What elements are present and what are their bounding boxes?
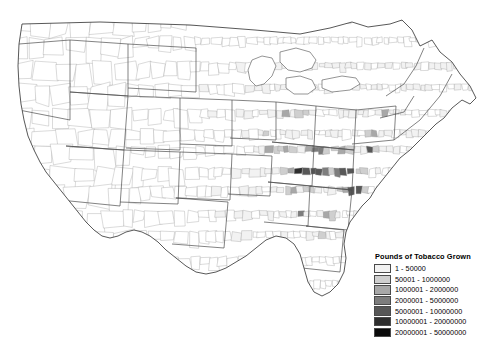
county-polygon — [270, 84, 275, 91]
county-polygon — [386, 146, 393, 153]
county-polygon — [163, 130, 182, 142]
county-polygon — [113, 15, 135, 37]
legend-label: 20000001 - 50000000 — [395, 328, 466, 337]
county-polygon — [297, 146, 305, 153]
county-polygon — [393, 63, 400, 70]
county-polygon — [379, 146, 387, 152]
county-polygon — [70, 229, 96, 251]
county-polygon — [353, 280, 361, 287]
county-polygon — [445, 232, 451, 240]
county-polygon — [217, 64, 229, 74]
county-polygon — [477, 14, 484, 21]
county-polygon — [269, 297, 277, 302]
county-polygon — [406, 211, 414, 217]
county-polygon — [308, 130, 313, 140]
county-polygon — [249, 257, 257, 267]
county-polygon — [451, 130, 457, 137]
legend-swatch — [374, 285, 391, 294]
county-polygon — [129, 295, 142, 311]
county-polygon — [323, 109, 330, 114]
county-polygon — [478, 110, 487, 118]
county-polygon — [396, 186, 403, 191]
county-polygon — [339, 297, 348, 304]
county-polygon — [35, 211, 48, 228]
county-polygon — [270, 187, 277, 193]
county-polygon — [277, 187, 284, 192]
county-polygon — [362, 231, 369, 241]
county-polygon — [180, 129, 197, 141]
county-polygon — [474, 84, 481, 91]
county-polygon — [405, 110, 412, 115]
county-polygon — [426, 211, 432, 216]
legend-swatch — [374, 328, 391, 337]
county-polygon — [10, 232, 29, 253]
county-polygon — [32, 282, 59, 301]
county-polygon — [173, 297, 186, 306]
county-polygon — [234, 14, 243, 22]
county-polygon — [140, 129, 154, 145]
county-polygon — [150, 281, 168, 295]
county-polygon — [331, 15, 338, 20]
county-polygon — [324, 37, 331, 43]
county-polygon — [208, 111, 218, 117]
county-polygon — [389, 231, 398, 240]
county-polygon — [403, 168, 410, 174]
county-polygon — [485, 211, 491, 216]
county-polygon — [449, 167, 456, 175]
county-polygon — [486, 231, 493, 239]
county-polygon — [471, 111, 480, 120]
county-polygon — [347, 281, 355, 290]
county-polygon — [249, 169, 261, 177]
county-polygon — [189, 280, 202, 292]
county-polygon — [86, 255, 106, 276]
county-polygon — [195, 37, 201, 45]
county-polygon — [219, 281, 229, 288]
county-polygon — [295, 296, 303, 304]
county-polygon — [282, 110, 290, 117]
county-polygon — [273, 211, 279, 218]
county-polygon — [206, 13, 216, 26]
county-polygon — [201, 38, 210, 45]
county-polygon — [215, 14, 225, 22]
county-polygon — [363, 14, 369, 20]
county-polygon — [299, 280, 308, 286]
county-polygon — [292, 297, 298, 303]
county-polygon — [101, 38, 121, 58]
county-polygon — [421, 62, 429, 71]
county-polygon — [360, 280, 368, 289]
county-polygon — [295, 257, 301, 263]
county-polygon — [440, 130, 446, 135]
county-polygon — [318, 37, 324, 45]
county-polygon — [257, 297, 264, 303]
county-polygon — [476, 38, 481, 43]
county-polygon — [375, 109, 383, 115]
county-polygon — [357, 130, 365, 136]
county-polygon — [289, 14, 296, 20]
county-polygon — [205, 297, 215, 307]
county-polygon — [349, 37, 357, 42]
county-polygon — [30, 12, 51, 38]
county-polygon — [63, 186, 91, 209]
county-polygon — [312, 257, 320, 262]
county-polygon — [401, 84, 407, 92]
county-polygon — [430, 168, 439, 178]
county-polygon — [485, 62, 493, 69]
county-polygon — [225, 109, 235, 121]
county-polygon — [101, 281, 123, 299]
county-polygon — [230, 281, 240, 290]
county-polygon — [469, 232, 477, 241]
county-polygon — [357, 62, 364, 70]
county-polygon — [278, 298, 286, 304]
county-polygon — [467, 63, 473, 71]
county-polygon — [271, 13, 278, 20]
county-polygon — [270, 37, 278, 45]
county-polygon — [29, 229, 52, 248]
county-polygon — [132, 13, 147, 33]
county-polygon — [446, 63, 452, 72]
county-polygon — [463, 14, 470, 19]
county-polygon — [209, 63, 219, 76]
county-polygon — [443, 146, 451, 153]
legend-label: 1 - 50000 — [395, 264, 426, 273]
county-polygon — [314, 187, 321, 193]
county-polygon — [431, 84, 440, 89]
